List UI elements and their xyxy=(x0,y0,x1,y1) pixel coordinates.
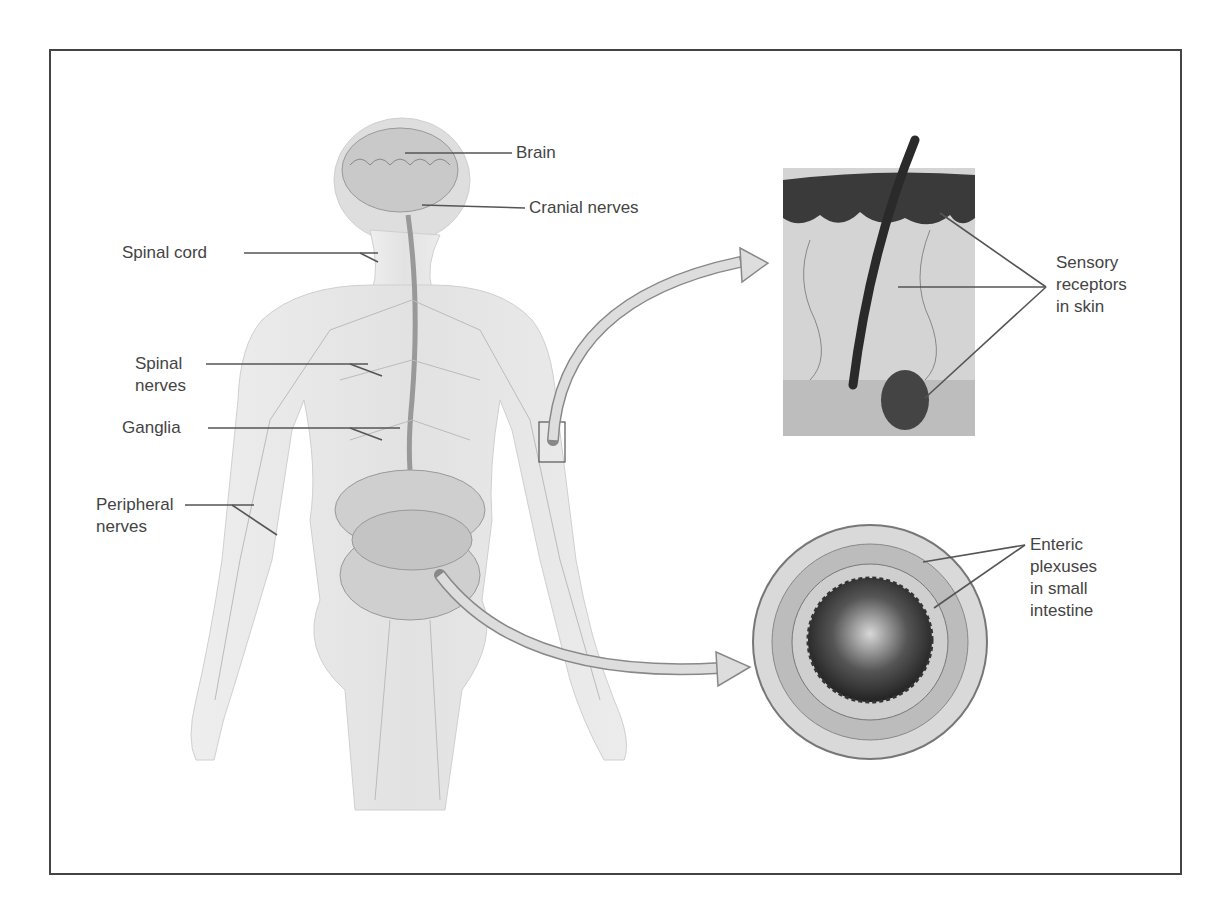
brain-shape xyxy=(342,128,458,212)
label-enteric-line4: intestine xyxy=(1030,600,1093,622)
label-peripheral-nerves-line1: Peripheral xyxy=(96,494,174,516)
label-sensory-line3: in skin xyxy=(1056,296,1104,318)
label-ganglia: Ganglia xyxy=(122,417,181,439)
label-enteric-line3: in small xyxy=(1030,578,1088,600)
label-brain: Brain xyxy=(516,142,556,164)
skin-cross-section xyxy=(783,140,975,436)
label-enteric-line1: Enteric xyxy=(1030,534,1083,556)
label-cranial-nerves: Cranial nerves xyxy=(529,197,639,219)
label-sensory-line2: receptors xyxy=(1056,274,1127,296)
intestine-cross-section xyxy=(753,525,987,759)
label-sensory-line1: Sensory xyxy=(1056,252,1118,274)
label-enteric-line2: plexuses xyxy=(1030,556,1097,578)
nervous-system-illustration xyxy=(0,0,1230,917)
label-spinal-cord: Spinal cord xyxy=(122,242,207,264)
label-peripheral-nerves-line2: nerves xyxy=(96,516,147,538)
label-spinal-nerves-line2: nerves xyxy=(135,375,186,397)
label-spinal-nerves-line1: Spinal xyxy=(135,353,182,375)
